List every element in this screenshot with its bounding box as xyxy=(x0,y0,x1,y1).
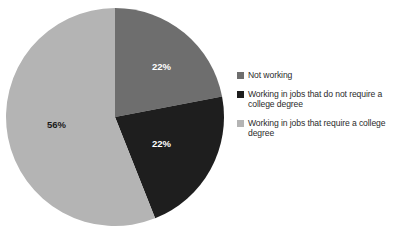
pie-slices xyxy=(6,8,224,226)
pie-chart-svg xyxy=(0,0,232,235)
pie-chart-figure: 22% 22% 56% Not working Working in jobs … xyxy=(0,0,395,235)
legend-swatch-icon-jobs-requiring-degree xyxy=(237,120,244,127)
legend-item-not-working[interactable]: Not working xyxy=(237,70,392,81)
pie-chart-plot-area: 22% 22% 56% xyxy=(0,0,232,235)
pie-slice-label-not-working: 22% xyxy=(152,62,171,72)
pie-slice-label-jobs-requiring-degree: 56% xyxy=(47,120,66,130)
legend-label-jobs-not-requiring-degree: Working in jobs that do not require a co… xyxy=(248,89,392,110)
legend-item-jobs-requiring-degree[interactable]: Working in jobs that require a college d… xyxy=(237,118,392,139)
chart-legend: Not working Working in jobs that do not … xyxy=(237,70,392,139)
legend-label-not-working: Not working xyxy=(248,70,292,81)
legend-item-jobs-not-requiring-degree[interactable]: Working in jobs that do not require a co… xyxy=(237,89,392,110)
legend-swatch-icon-jobs-not-requiring-degree xyxy=(237,91,244,98)
pie-slice-label-jobs-not-requiring-degree: 22% xyxy=(152,139,171,149)
legend-swatch-icon-not-working xyxy=(237,72,244,79)
legend-label-jobs-requiring-degree: Working in jobs that require a college d… xyxy=(248,118,392,139)
